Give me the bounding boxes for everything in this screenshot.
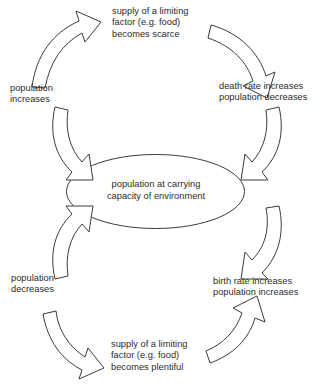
node-line-1: supply of a limiting (111, 339, 187, 349)
arrow-top-left (32, 11, 101, 88)
node-line-1: population (10, 83, 53, 93)
center-line-2: capacity of environment (107, 191, 205, 201)
node-line-3: becomes plentiful (111, 362, 183, 372)
node-line-1: death rate increases (219, 81, 303, 91)
node-line-2: factor (e.g. food) (111, 350, 179, 360)
node-line-1: supply of a limiting (112, 6, 188, 16)
node-label-limiting-factor-scarce: supply of a limiting factor (e.g. food) … (112, 6, 188, 40)
node-label-limiting-factor-plentiful: supply of a limiting factor (e.g. food) … (111, 339, 187, 373)
arrow-bottom-right (206, 296, 265, 363)
node-line-2: population increases (213, 287, 298, 297)
node-line-3: becomes scarce (112, 29, 180, 39)
node-line-2: decreases (11, 284, 54, 294)
node-line-2: increases (10, 94, 50, 104)
node-line-1: population (11, 273, 54, 283)
cycle-diagram: supply of a limiting factor (e.g. food) … (0, 0, 335, 389)
arrow-left-lower (53, 206, 93, 279)
node-label-population-decreases: population decreases (11, 273, 54, 296)
node-label-birth-rate-increases: birth rate increases population increase… (213, 276, 298, 299)
arrow-left-upper (53, 107, 93, 180)
node-line-2: population decreases (219, 92, 307, 102)
arrow-bottom-left (43, 311, 104, 379)
center-line-1: population at carrying (112, 179, 201, 189)
arrow-right-lower (241, 206, 281, 279)
center-ellipse-label: population at carrying capacity of envir… (66, 178, 246, 202)
node-line-1: birth rate increases (213, 276, 292, 286)
arrow-right-upper (241, 107, 281, 180)
node-label-population-increases: population increases (10, 83, 53, 106)
node-label-death-rate-increases: death rate increases population decrease… (219, 81, 307, 104)
node-line-2: factor (e.g. food) (112, 17, 180, 27)
